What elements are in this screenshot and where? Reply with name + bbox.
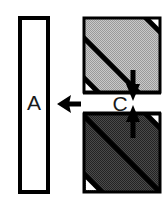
- diagram-canvas: A: [0, 0, 164, 208]
- left-pointing-arrow: [57, 95, 81, 113]
- interlayer: C: [83, 92, 161, 115]
- left-pointing-arrow-shape: [57, 95, 81, 113]
- left-bar-group: A: [20, 18, 48, 192]
- right-block-group: C: [80, 14, 164, 198]
- interlayer-label: C: [112, 92, 127, 115]
- upper-layer-fill: [84, 18, 160, 92]
- lower-layer: [82, 110, 164, 198]
- left-bar-label: A: [27, 91, 41, 114]
- diagram-svg: A: [0, 0, 164, 208]
